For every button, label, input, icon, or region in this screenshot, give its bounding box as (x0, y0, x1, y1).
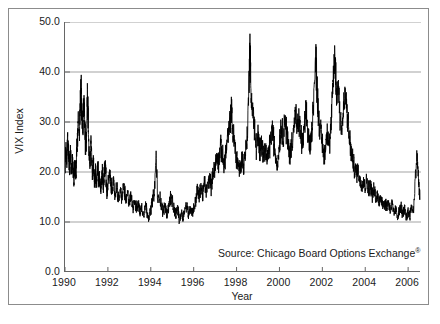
y-axis-tick-label: 40.0 (12, 66, 60, 77)
series-group (65, 34, 420, 224)
chart-figure: 0.010.020.030.040.050.0 1990199219941996… (0, 0, 440, 324)
data-series-line (65, 34, 420, 224)
y-axis-title: VIX Index (13, 86, 25, 176)
x-axis-tick-label: 2006 (382, 276, 432, 288)
source-text: Source: Chicago Board Options Exchange (218, 247, 415, 259)
x-axis-title: Year (64, 290, 420, 302)
plot-area (64, 22, 420, 272)
y-axis-tick-label: 10.0 (12, 216, 60, 227)
source-annotation: Source: Chicago Board Options Exchange® (218, 247, 420, 259)
gridlines (65, 22, 421, 272)
y-axis-tick-label: 50.0 (12, 16, 60, 27)
registered-trademark-icon: ® (415, 247, 420, 254)
vix-series-plot (65, 22, 421, 272)
